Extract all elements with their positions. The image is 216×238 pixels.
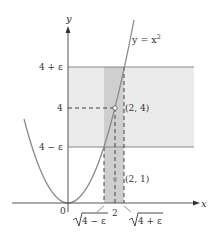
x-tick-2: 2 xyxy=(112,208,118,218)
y-axis-arrow-icon xyxy=(66,26,71,33)
y-tick-4: 4 xyxy=(57,103,63,113)
leader-sqrt-plus xyxy=(124,206,131,212)
y-tick-4-plus-eps: 4 + ε xyxy=(39,62,63,72)
leader-sqrt-minus xyxy=(97,206,104,212)
x-axis-label: x xyxy=(201,198,207,209)
origin-label: 0 xyxy=(60,206,66,216)
x-axis-arrow-icon xyxy=(193,201,200,206)
x-tick-sqrt-4-minus-eps: 4 − ε xyxy=(82,216,106,226)
point-label-2-4: (2, 4) xyxy=(125,103,149,113)
curve-label: y = x2 xyxy=(131,33,161,45)
epsilon-diagram: y x 0 y = x2 4 + ε 4 4 − ε (2, 4) (2, 1)… xyxy=(0,0,216,238)
y-tick-4-minus-eps: 4 − ε xyxy=(39,142,63,152)
x-tick-sqrt-4-plus-eps: 4 + ε xyxy=(138,216,162,226)
open-point-2-4 xyxy=(113,106,117,110)
point-label-2-1: (2, 1) xyxy=(125,174,149,184)
y-axis-label: y xyxy=(65,13,72,24)
filled-point-2-1 xyxy=(113,177,117,181)
